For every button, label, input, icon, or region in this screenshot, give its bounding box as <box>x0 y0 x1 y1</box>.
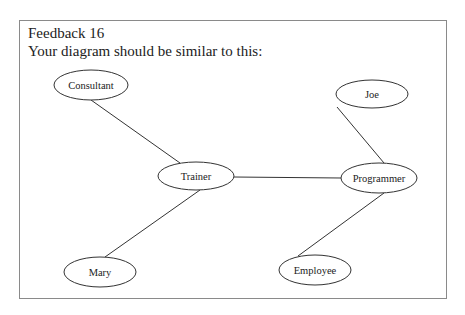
edge-joe-programmer <box>337 107 384 163</box>
node-consultant: Consultant <box>54 70 128 100</box>
node-trainer: Trainer <box>158 162 234 190</box>
node-mary: Mary <box>64 257 136 287</box>
diagram-canvas: Consultant Joe Trainer Programmer Mary E… <box>0 0 465 315</box>
edge-trainer-mary <box>105 190 200 257</box>
node-joe: Joe <box>336 80 408 108</box>
node-programmer: Programmer <box>341 163 417 193</box>
edge-trainer-programmer <box>234 177 341 178</box>
node-employee: Employee <box>279 255 351 285</box>
edge-consultant-trainer <box>91 100 180 163</box>
node-label: Trainer <box>181 171 212 182</box>
node-label: Employee <box>294 265 337 276</box>
node-label: Joe <box>365 89 379 100</box>
node-label: Mary <box>89 267 112 278</box>
node-label: Consultant <box>68 80 114 91</box>
node-label: Programmer <box>353 173 406 184</box>
edge-programmer-employee <box>298 193 384 256</box>
